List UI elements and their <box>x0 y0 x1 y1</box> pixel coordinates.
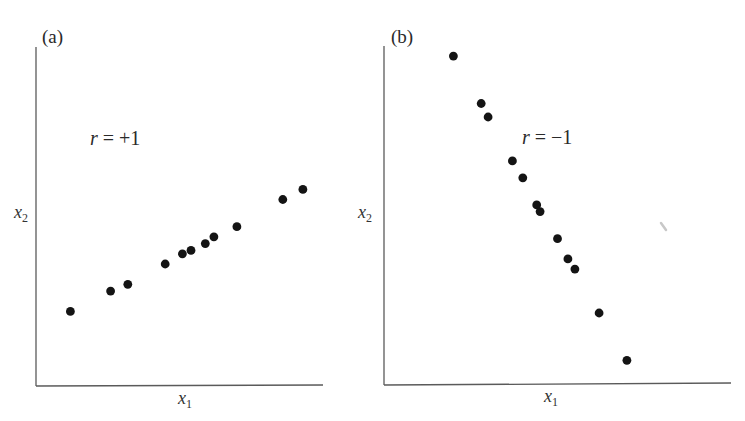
data-point <box>484 113 493 122</box>
panel-a-correlation-annotation: r = +1 <box>90 127 140 149</box>
data-point <box>449 52 458 61</box>
data-point <box>299 185 308 194</box>
panel-b-correlation-annotation: r = −1 <box>522 126 572 148</box>
panel-a-data-points <box>66 185 307 316</box>
panel-b-data-points <box>449 52 631 365</box>
data-point <box>623 356 632 365</box>
data-point <box>210 232 219 241</box>
data-point <box>564 255 573 264</box>
panel-b-label: (b) <box>391 26 413 48</box>
data-point <box>233 222 242 231</box>
data-point <box>161 260 170 269</box>
data-point <box>106 287 115 296</box>
panel-a-x-axis-label: x1 <box>177 388 192 411</box>
panel-b-negative-correlation: (b) x2 x1 r = −1 <box>357 26 731 409</box>
data-point <box>508 157 517 166</box>
data-point <box>477 99 486 108</box>
data-point <box>178 249 187 258</box>
panel-b-y-axis-label: x2 <box>357 202 372 225</box>
panel-b-x-axis-label: x1 <box>543 386 558 409</box>
data-point <box>571 265 580 274</box>
panel-a-positive-correlation: (a) x2 x1 r = +1 <box>13 26 323 411</box>
scan-artifact-mark <box>661 223 666 230</box>
data-point <box>595 309 604 318</box>
panel-a-x-axis <box>36 385 323 386</box>
data-point <box>66 307 75 316</box>
panel-b-x-axis <box>384 383 731 385</box>
data-point <box>187 246 196 255</box>
panel-a-y-axis-label: x2 <box>13 202 28 225</box>
data-point <box>201 239 210 248</box>
data-point <box>536 207 545 216</box>
data-point <box>553 234 562 243</box>
panel-a-label: (a) <box>42 26 63 48</box>
data-point <box>278 195 287 204</box>
figure-canvas: (a) x2 x1 r = +1 (b) x2 x1 r = −1 <box>0 0 745 421</box>
data-point <box>518 173 527 182</box>
correlation-figure: (a) x2 x1 r = +1 (b) x2 x1 r = −1 <box>0 0 745 421</box>
data-point <box>123 280 132 289</box>
